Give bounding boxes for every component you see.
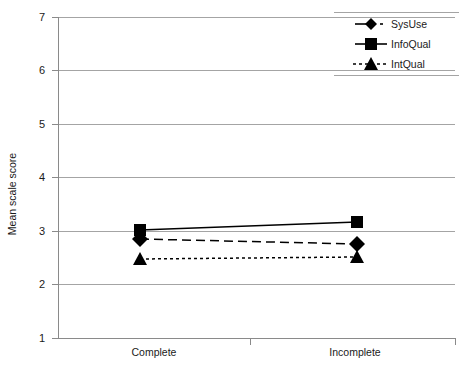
square-marker-icon (365, 38, 377, 50)
chart-background (0, 0, 463, 371)
legend-label-infoqual: InfoQual (391, 38, 431, 50)
legend-label-sysuse: SysUse (391, 18, 427, 30)
legend-label-intqual: IntQual (391, 58, 425, 70)
y-tick-label-7: 7 (39, 11, 45, 23)
y-tick-label-3: 3 (39, 225, 45, 237)
line-chart: 7 6 5 4 3 2 1 Mean scale score Complete … (0, 0, 463, 371)
y-tick-label-6: 6 (39, 64, 45, 76)
y-axis-title: Mean scale score (6, 153, 18, 235)
y-tick-label-5: 5 (39, 118, 45, 130)
y-tick-label-1: 1 (39, 332, 45, 344)
x-tick-label-incomplete: Incomplete (329, 346, 381, 358)
x-tick-label-complete: Complete (132, 346, 177, 358)
legend-item-infoqual[interactable]: InfoQual (355, 38, 431, 50)
y-tick-label-2: 2 (39, 278, 45, 290)
y-tick-label-4: 4 (39, 171, 45, 183)
data-point-infoqual-incomplete (351, 216, 363, 228)
